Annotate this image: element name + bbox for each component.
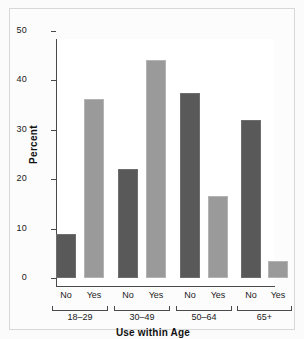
tick-label-yes: Yes: [141, 290, 171, 300]
tick-label-no: No: [51, 290, 81, 300]
tick-label-no: No: [236, 290, 266, 300]
y-axis-tick: [51, 31, 56, 32]
y-axis-tick-label: 40: [0, 74, 27, 84]
tick-label-no: No: [175, 290, 205, 300]
bar-50-64-yes: [208, 196, 228, 278]
y-axis-tick-label: 10: [0, 223, 27, 233]
x-axis-title: Use within Age: [10, 327, 296, 338]
group-bracket: [176, 306, 232, 311]
bar-30-49-yes: [146, 60, 166, 278]
tick-label-yes: Yes: [79, 290, 109, 300]
y-axis-tick: [51, 229, 56, 230]
bar-30-49-no: [118, 169, 138, 278]
bar-50-64-no: [180, 93, 200, 278]
y-axis-tick: [51, 278, 56, 279]
figure-frame: 01020304050 Percent NoYesNoYesNoYesNoYes…: [9, 8, 295, 330]
y-axis-tick-label: 0: [0, 272, 27, 282]
y-axis-tick-label: 30: [0, 124, 27, 134]
bar-65+-yes: [268, 261, 288, 278]
group-label: 50–64: [174, 312, 234, 322]
y-axis-tick: [51, 80, 56, 81]
y-axis-tick-label: 50: [0, 25, 27, 35]
group-bracket: [52, 306, 108, 311]
y-axis-title: Percent: [28, 110, 39, 180]
y-axis-tick-label: 20: [0, 173, 27, 183]
bar-65+-no: [241, 120, 261, 278]
group-label: 65+: [235, 312, 295, 322]
tick-label-no: No: [113, 290, 143, 300]
chart-figure: 01020304050 Percent NoYesNoYesNoYesNoYes…: [0, 0, 304, 339]
bar-18-29-no: [56, 234, 76, 278]
y-axis-tick: [51, 179, 56, 180]
tick-label-yes: Yes: [203, 290, 233, 300]
group-label: 18–29: [50, 312, 110, 322]
tick-label-yes: Yes: [263, 290, 293, 300]
y-axis-tick: [51, 130, 56, 131]
x-axis-line: [56, 286, 275, 287]
bar-18-29-yes: [84, 99, 104, 278]
group-bracket: [237, 306, 292, 311]
group-label: 30–49: [112, 312, 172, 322]
group-bracket: [114, 306, 170, 311]
